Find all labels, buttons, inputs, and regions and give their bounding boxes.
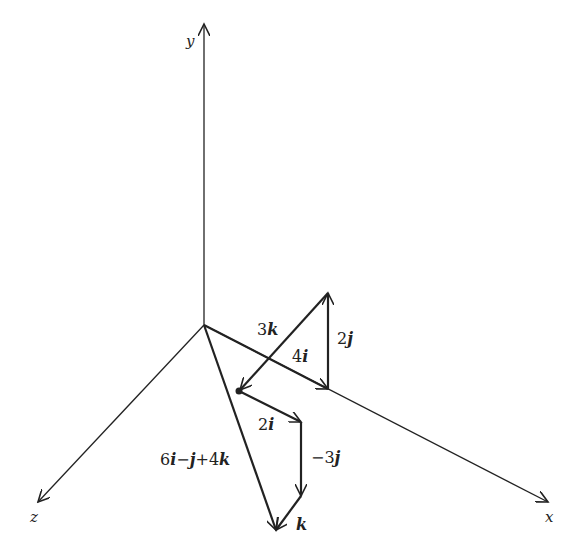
- label-3k: 3k: [257, 320, 278, 339]
- vector-3k: [240, 293, 328, 390]
- label-4i: 4i: [292, 347, 308, 366]
- label-2i: 2i: [258, 415, 274, 434]
- label-minus-3j: −3j: [311, 448, 341, 467]
- y-axis-label: y: [185, 32, 195, 50]
- z-axis: [38, 325, 204, 502]
- label-k: k: [296, 515, 307, 534]
- z-axis-label: z: [29, 508, 38, 526]
- label-2j: 2j: [337, 329, 353, 348]
- vector-diagram: y x z 3k 4i 2j 2i −3j k 6i−j+4k: [0, 0, 576, 549]
- x-axis-label: x: [545, 508, 554, 526]
- label-resultant: 6i−j+4k: [160, 450, 230, 469]
